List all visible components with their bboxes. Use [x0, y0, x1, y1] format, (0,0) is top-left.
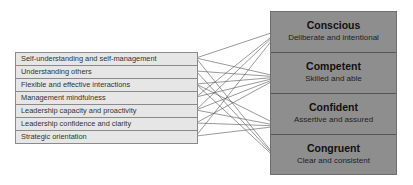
- outcome-title: Congruent: [271, 142, 396, 155]
- list-item: Flexible and effective interactions: [16, 79, 197, 92]
- outcome-congruent: Congruent Clear and consistent: [271, 135, 396, 176]
- outcome-subtitle: Assertive and assured: [271, 114, 396, 125]
- outcome-confident: Confident Assertive and assured: [271, 94, 396, 135]
- outcome-subtitle: Clear and consistent: [271, 155, 396, 166]
- list-item: Leadership capacity and proactivity: [16, 105, 197, 118]
- competency-list: Self-understanding and self-management U…: [15, 52, 198, 144]
- list-item: Management mindfulness: [16, 92, 197, 105]
- outcome-title: Competent: [271, 60, 396, 73]
- outcome-title: Confident: [271, 101, 396, 114]
- list-item: Self-understanding and self-management: [16, 53, 197, 66]
- outcome-competent: Competent Skilled and able: [271, 53, 396, 94]
- list-item: Leadership confidence and clarity: [16, 118, 197, 131]
- outcome-title: Conscious: [271, 19, 396, 32]
- list-item: Strategic orientation: [16, 131, 197, 143]
- outcome-conscious: Conscious Deliberate and intentional: [271, 12, 396, 53]
- outcome-panel: Conscious Deliberate and intentional Com…: [270, 11, 397, 175]
- outcome-subtitle: Skilled and able: [271, 73, 396, 84]
- outcome-subtitle: Deliberate and intentional: [271, 32, 396, 43]
- list-item: Understanding others: [16, 66, 197, 79]
